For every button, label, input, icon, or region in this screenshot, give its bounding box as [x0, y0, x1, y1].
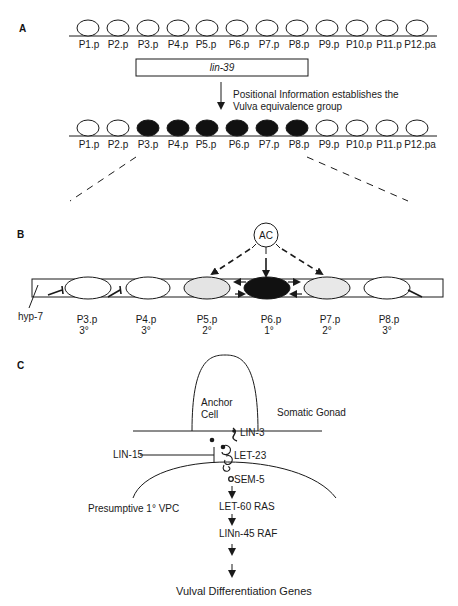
cell-label: P5.p: [196, 139, 217, 150]
cell-label: P11.p: [376, 39, 402, 50]
panel-b-label: B: [17, 229, 24, 240]
cell-label: P11.p: [376, 139, 402, 150]
cell-label: P1.p: [79, 139, 100, 150]
cell-label: P2.p: [108, 39, 129, 50]
cell-name: P6.p: [261, 314, 282, 325]
bottom-cell-row: P1.p P2.p P3.p P4.p P5.p P6.p P7.p P8.p …: [69, 120, 437, 150]
anchor-cell-label: AC: [259, 230, 273, 241]
vulva-development-diagram: A P1.p P2.p P3.p P4.p P5.p P6.p P7.p P8.…: [0, 0, 458, 606]
cell-label: P9.p: [319, 139, 340, 150]
cell-label: P1.p: [79, 39, 100, 50]
cell-label: P2.p: [108, 139, 129, 150]
cell-fate: 2°: [202, 325, 212, 336]
cell-label: P6.p: [229, 139, 250, 150]
signal-arrow-p7: [282, 249, 322, 274]
panel-c-label: C: [17, 360, 24, 371]
cell-label: P10.p: [346, 39, 373, 50]
sem-5-label: SEM-5: [234, 474, 265, 485]
cell-fate: 3°: [141, 325, 151, 336]
let-23-receptor-icon: [222, 445, 232, 471]
zoom-dash-left: [70, 157, 136, 201]
cell-label: P12.pa: [404, 139, 436, 150]
anchor-cell-text: Anchor: [201, 397, 233, 408]
lin-3-label: LIN-3: [240, 427, 265, 438]
panel-a-label: A: [19, 23, 26, 34]
cell-name: P7.p: [320, 314, 341, 325]
positional-info-text-2: Vulva equivalence group: [233, 101, 343, 112]
cell-fate: 2°: [322, 325, 332, 336]
sem-5-adaptor-icon: [229, 477, 234, 482]
cell-label: P9.p: [319, 39, 340, 50]
cell-label: P7.p: [259, 39, 280, 50]
vpc-label: Presumptive 1° VPC: [88, 503, 179, 514]
cell-name: P3.p: [77, 314, 98, 325]
cell-label: P6.p: [229, 39, 250, 50]
lin-39-label: lin-39: [210, 62, 235, 73]
cell-label: P8.p: [289, 39, 310, 50]
top-cell-row: P1.p P2.p P3.p P4.p P5.p P6.p P7.p P8.p …: [69, 20, 437, 50]
lin-45-raf-label: LINn-45 RAF: [219, 528, 277, 539]
let-23-label: LET-23: [234, 450, 267, 461]
anchor-cell-text-2: Cell: [201, 409, 218, 420]
cell-label: P7.p: [259, 139, 280, 150]
hyp-7-label: hyp-7: [18, 311, 43, 322]
vulval-genes-label: Vulval Differentiation Genes: [176, 585, 312, 597]
let-60-ras-label: LET-60 RAS: [219, 501, 275, 512]
cell-label: P3.p: [138, 39, 159, 50]
positional-info-text: Positional Information establishes the: [233, 89, 399, 100]
cell-name: P4.p: [136, 314, 157, 325]
lin-15-label: LIN-15: [113, 449, 143, 460]
cell-label: P10.p: [346, 139, 373, 150]
cell-fate: 3°: [382, 325, 392, 336]
cell-label: P4.p: [168, 39, 189, 50]
zoom-dash-right: [307, 157, 408, 201]
cell-label: P3.p: [138, 139, 159, 150]
cell-name: P8.p: [379, 314, 400, 325]
cell-label: P8.p: [289, 139, 310, 150]
cell-name: P5.p: [197, 314, 218, 325]
signal-arrow-p5: [212, 249, 250, 274]
cell-label: P4.p: [168, 139, 189, 150]
cell-label: P12.pa: [404, 39, 436, 50]
somatic-gonad-label: Somatic Gonad: [277, 407, 346, 418]
cell-fate: 3°: [79, 325, 89, 336]
cell-fate: 1°: [264, 325, 274, 336]
cell-label: P5.p: [196, 39, 217, 50]
